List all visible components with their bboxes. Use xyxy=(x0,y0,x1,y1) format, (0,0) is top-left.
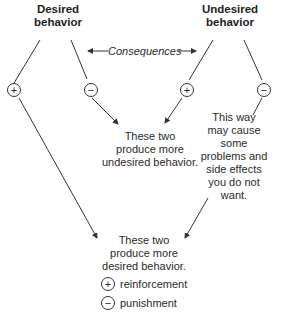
undesired-line2: behavior xyxy=(185,16,275,29)
side-effects-line: problems and xyxy=(196,150,272,163)
side-effects-line: may cause xyxy=(196,124,272,137)
undesired-behavior-label: Undesired behavior xyxy=(185,3,275,29)
minus-icon-undesired: − xyxy=(257,83,271,97)
arrow-desired-minus xyxy=(92,98,118,124)
legend-punishment: − punishment xyxy=(101,295,177,311)
undesired-outcome-text: These two produce more undesired behavio… xyxy=(100,130,200,169)
plus-icon: + xyxy=(101,277,115,291)
minus-icon-desired: − xyxy=(84,83,98,97)
desired-outcome-line: produce more xyxy=(96,247,192,260)
arrow-side-effects xyxy=(185,198,208,238)
desired-behavior-label: Desired behavior xyxy=(18,3,98,29)
legend-reinforcement: + reinforcement xyxy=(101,276,187,292)
line-undesired-to-minus xyxy=(244,40,262,80)
side-effects-line: some xyxy=(196,137,272,150)
side-effects-line: This way xyxy=(196,111,272,124)
plus-icon-undesired: + xyxy=(180,83,194,97)
line-desired-to-plus xyxy=(14,40,40,83)
plus-icon-desired: + xyxy=(7,83,21,97)
side-effects-line: you do not xyxy=(196,176,272,189)
desired-outcome-line: These two xyxy=(96,234,192,247)
side-effects-line: want. xyxy=(196,189,272,202)
line-desired-to-minus xyxy=(71,40,87,79)
undesired-outcome-line: undesired behavior. xyxy=(100,156,200,169)
legend-label: reinforcement xyxy=(120,278,187,290)
legend-label: punishment xyxy=(120,297,177,309)
undesired-line1: Undesired xyxy=(185,3,275,16)
desired-outcome-text: These two produce more desired behavior. xyxy=(96,234,192,273)
minus-icon: − xyxy=(101,296,115,310)
desired-line1: Desired xyxy=(18,3,98,16)
desired-line2: behavior xyxy=(18,16,98,29)
consequences-label: Consequences xyxy=(108,45,180,58)
side-effects-line: side effects xyxy=(196,163,272,176)
undesired-outcome-line: produce more xyxy=(100,143,200,156)
desired-outcome-line: desired behavior. xyxy=(96,260,192,273)
arrow-undesired-plus xyxy=(165,98,182,123)
arrow-desired-plus xyxy=(19,98,97,238)
undesired-outcome-line: These two xyxy=(100,130,200,143)
line-undesired-to-plus xyxy=(189,40,213,80)
side-effects-text: This way may cause some problems and sid… xyxy=(196,111,272,202)
